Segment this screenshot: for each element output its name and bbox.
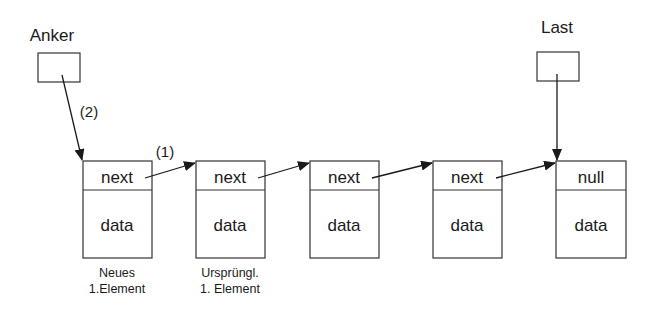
node-next-field: next [328,168,360,187]
node-1: next data Neues 1.Element [83,161,152,296]
node-2: next data Ursprüngl. 1. Element [196,161,265,296]
node-caption-line2: 1.Element [89,282,146,296]
anker-label: Anker [30,26,75,45]
node-caption-line1: Neues [99,266,135,280]
anker-pointer-box [38,53,80,82]
node-data-field: data [574,216,608,235]
node-next-field: next [451,168,483,187]
node-data-field: data [327,216,361,235]
next-arrow-3-4 [372,163,432,178]
node-data-field: data [450,216,484,235]
next-arrow-4-5 [496,163,555,178]
next-arrow-2-3 [258,163,309,178]
step2-label: (2) [80,103,98,120]
last-pointer-box [537,52,579,81]
step1-label: (1) [156,143,174,160]
last-label: Last [541,18,573,37]
node-caption-line1: Ursprüngl. [201,266,259,280]
node-caption-line2: 1. Element [200,282,260,296]
node-3: next data [310,161,379,258]
node-next-field: next [101,168,133,187]
linked-list-diagram: Anker (2) Last next data Neues 1.Element… [0,0,652,321]
node-null-field: null [578,168,604,187]
node-next-field: next [214,168,246,187]
node-5: null data [556,161,626,258]
node-data-field: data [213,216,247,235]
node-data-field: data [100,216,134,235]
node-4: next data [433,161,502,258]
